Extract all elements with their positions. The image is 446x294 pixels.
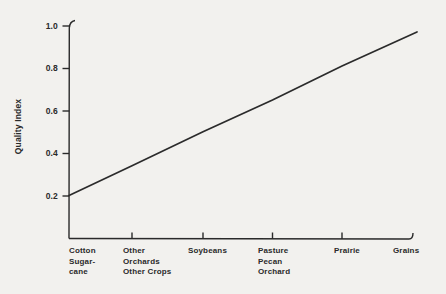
x-label-line: Grains <box>393 246 419 257</box>
x-category-label-cotton-sugarcane: Cotton Sugar- cane <box>69 246 96 278</box>
x-label-line: Soybeans <box>188 246 227 257</box>
y-axis-title: Quality Index <box>13 84 24 170</box>
axes <box>63 21 414 240</box>
x-category-label-pasture-pecan-orchard: Pasture Pecan Orchard <box>258 246 290 278</box>
y-tick-label: 1.0 <box>30 21 58 31</box>
x-label-line: cane <box>69 267 96 278</box>
x-label-line: Orchards <box>123 257 171 268</box>
x-axis-line <box>69 233 413 239</box>
x-label-line: Prairie <box>334 246 360 257</box>
y-tick-label: 0.4 <box>30 148 58 158</box>
x-category-label-soybeans: Soybeans <box>188 246 227 257</box>
x-label-line: Other <box>123 246 171 257</box>
y-axis-line <box>69 21 75 239</box>
x-category-label-prairie: Prairie <box>334 246 360 257</box>
y-tick-label: 0.2 <box>30 191 58 201</box>
y-tick-label: 0.8 <box>30 63 58 73</box>
quality-index-line-chart: Quality Index 1.0 0.8 0.6 0.4 0.2 Cotton… <box>0 0 446 294</box>
x-label-line: Pecan <box>258 257 290 268</box>
x-label-line: Sugar- <box>69 257 96 268</box>
x-label-line: Cotton <box>69 246 96 257</box>
x-category-label-grains: Grains <box>393 246 419 257</box>
quality-index-data-line <box>69 32 417 196</box>
x-label-line: Orchard <box>258 267 290 278</box>
y-tick-label: 0.6 <box>30 106 58 116</box>
x-label-line: Pasture <box>258 246 290 257</box>
x-label-line: Other Crops <box>123 267 171 278</box>
x-category-label-other-orchards-other-crops: Other Orchards Other Crops <box>123 246 171 278</box>
